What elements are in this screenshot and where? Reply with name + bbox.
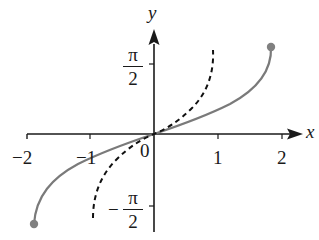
y-tick-label-neg-sign: − <box>108 200 119 219</box>
y-axis-label: y <box>148 3 156 22</box>
x-tick-label-neg2: −2 <box>12 148 32 167</box>
y-tick-label-neg-pi-over-2: π 2 <box>123 188 143 231</box>
fraction-bar <box>123 66 143 67</box>
fraction-bar <box>123 209 143 210</box>
fraction-numerator: π <box>128 188 138 207</box>
fraction-denominator: 2 <box>128 69 138 88</box>
y-tick-label-pi-over-2: π 2 <box>123 45 143 88</box>
fraction-numerator: π <box>128 45 138 64</box>
solid-curve-upper-endpoint <box>267 43 275 51</box>
graph-figure <box>0 0 319 240</box>
y-axis-arrow-icon <box>149 29 160 45</box>
x-axis-label: x <box>306 122 314 141</box>
x-tick-label-0: 0 <box>140 141 150 160</box>
fraction-denominator: 2 <box>128 212 138 231</box>
x-tick-label-1: 1 <box>213 148 223 167</box>
x-tick-label-neg1: −1 <box>76 148 96 167</box>
x-tick-label-2: 2 <box>277 148 287 167</box>
solid-curve-lower-endpoint <box>30 220 38 228</box>
